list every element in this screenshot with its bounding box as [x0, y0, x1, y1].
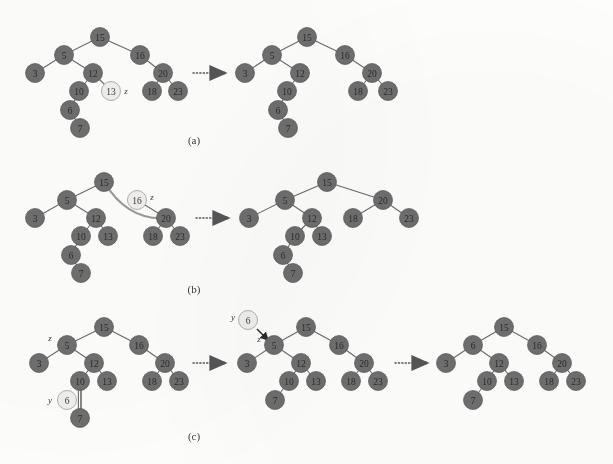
panel-caption-a: (a) — [188, 134, 201, 147]
tree-node-12: 12 — [292, 354, 311, 373]
node-key-label: 12 — [91, 214, 101, 224]
node-key-label: 12 — [494, 359, 504, 369]
node-key-label: 23 — [173, 87, 183, 97]
node-key-label: 16 — [132, 196, 142, 206]
tree-node-7: 7 — [284, 264, 303, 283]
tree-node-5: 5 — [58, 191, 77, 210]
panel-a: 15516312201013182367z155163122010182367(… — [26, 28, 398, 148]
node-key-label: 3 — [243, 69, 248, 79]
node-key-label: 18 — [346, 377, 356, 387]
node-key-label: 3 — [247, 214, 252, 224]
pointer-label-y: y — [230, 312, 235, 322]
tree-node-10: 10 — [70, 82, 89, 101]
tree-node-6: 6 — [269, 101, 288, 120]
tree-node-18: 18 — [143, 82, 162, 101]
node-key-label: 5 — [283, 196, 288, 206]
tree-node-7: 7 — [266, 391, 285, 410]
node-key-label: 23 — [571, 377, 581, 387]
tree-node-16: 16 — [528, 336, 547, 355]
panel-b: 15516312201013182367z155203121823101367(… — [26, 173, 419, 297]
tree-node-3: 3 — [26, 209, 45, 228]
tree-a-right: 155163122010182367 — [236, 28, 398, 138]
node-key-label: 15 — [302, 33, 312, 43]
tree-node-23: 23 — [400, 209, 419, 228]
node-key-label: 13 — [103, 232, 113, 242]
tree-node-6: 6 — [61, 101, 80, 120]
tree-node-13: 13 — [102, 82, 121, 101]
node-key-label: 7 — [471, 396, 476, 406]
node-key-label: 18 — [544, 377, 554, 387]
node-key-label: 5 — [65, 196, 70, 206]
tree-node-7: 7 — [279, 119, 298, 138]
node-key-label: 6 — [281, 251, 286, 261]
node-key-label: 3 — [444, 359, 449, 369]
tree-node-16: 16 — [336, 46, 355, 65]
tree-node-23: 23 — [169, 82, 188, 101]
tree-node-3: 3 — [236, 64, 255, 83]
node-key-label: 3 — [33, 69, 38, 79]
tree-node-18: 18 — [344, 209, 363, 228]
node-key-label: 10 — [76, 232, 86, 242]
tree-node-15: 15 — [298, 28, 317, 47]
node-key-label: 5 — [62, 51, 67, 61]
tree-node-3: 3 — [238, 354, 257, 373]
tree-node-15: 15 — [95, 318, 114, 337]
node-key-label: 13 — [317, 232, 327, 242]
panel-caption-b: (b) — [188, 283, 201, 296]
pointer-label-z: z — [256, 334, 261, 344]
tree-node-23: 23 — [567, 372, 586, 391]
tree-node-12: 12 — [84, 64, 103, 83]
tree-node-12: 12 — [87, 209, 106, 228]
tree-node-16: 16 — [130, 336, 149, 355]
node-key-label: 18 — [147, 377, 157, 387]
pointer-label-z: z — [149, 192, 154, 202]
tree-c-right: 1561631220101318237 — [437, 318, 586, 410]
tree-node-12: 12 — [490, 354, 509, 373]
node-key-label: 10 — [74, 87, 84, 97]
node-key-label: 20 — [158, 69, 168, 79]
node-key-label: 5 — [65, 341, 70, 351]
tree-node-6: 6 — [274, 246, 293, 265]
node-key-label: 12 — [295, 69, 305, 79]
tree-node-7: 7 — [72, 264, 91, 283]
node-key-label: 15 — [322, 178, 332, 188]
tree-node-18: 18 — [342, 372, 361, 391]
pointer-label-z: z — [47, 333, 52, 343]
tree-node-16: 16 — [128, 191, 147, 210]
tree-c-mid: 15516312201013182376yz — [230, 311, 388, 410]
tree-node-15: 15 — [297, 318, 316, 337]
node-key-label: 13 — [106, 87, 116, 97]
tree-node-23: 23 — [369, 372, 388, 391]
tree-node-20: 20 — [157, 209, 176, 228]
node-key-label: 18 — [353, 87, 363, 97]
tree-node-5: 5 — [58, 336, 77, 355]
tree-c-left: 15516312201013182367zy — [30, 318, 189, 428]
node-key-label: 16 — [532, 341, 542, 351]
tree-node-15: 15 — [495, 318, 514, 337]
tree-node-15: 15 — [95, 173, 114, 192]
tree-node-10: 10 — [280, 372, 299, 391]
node-key-label: 15 — [99, 178, 109, 188]
tree-node-13: 13 — [307, 372, 326, 391]
tree-node-16: 16 — [131, 46, 150, 65]
tree-node-10: 10 — [286, 227, 305, 246]
node-key-label: 3 — [245, 359, 250, 369]
tree-node-6: 6 — [58, 391, 77, 410]
node-key-label: 15 — [95, 33, 105, 43]
node-key-label: 10 — [482, 377, 492, 387]
tree-node-20: 20 — [363, 64, 382, 83]
tree-node-15: 15 — [318, 173, 337, 192]
panel-caption-c: (c) — [188, 430, 201, 443]
tree-node-5: 5 — [265, 336, 284, 355]
node-key-label: 16 — [334, 341, 344, 351]
tree-node-10: 10 — [278, 82, 297, 101]
tree-node-3: 3 — [240, 209, 259, 228]
tree-node-18: 18 — [144, 227, 163, 246]
tree-node-12: 12 — [303, 209, 322, 228]
tree-b-left: 15516312201013182367z — [26, 173, 190, 283]
node-key-label: 6 — [246, 316, 251, 326]
tree-b-right: 155203121823101367 — [240, 173, 419, 283]
node-key-label: 13 — [509, 377, 519, 387]
node-key-label: 16 — [340, 51, 350, 61]
node-key-label: 23 — [175, 232, 185, 242]
